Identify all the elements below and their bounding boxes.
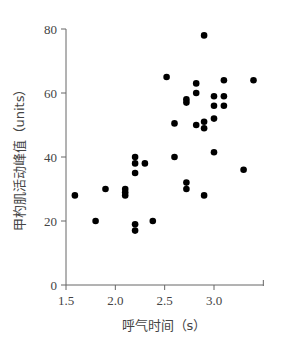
x-axis-title: 呼气时间（s） — [122, 318, 207, 333]
data-point — [211, 103, 218, 110]
data-point — [142, 160, 149, 167]
x-tick-label: 3.0 — [206, 293, 222, 308]
data-point — [132, 227, 139, 234]
y-tick-label: 0 — [51, 278, 58, 293]
y-tick-label: 20 — [44, 214, 57, 229]
data-point — [240, 167, 247, 174]
data-point — [221, 103, 228, 110]
data-point — [193, 122, 200, 129]
y-tick-label: 40 — [44, 150, 57, 165]
data-points — [72, 32, 257, 234]
data-point — [171, 120, 178, 127]
data-point — [211, 115, 218, 122]
data-point — [201, 192, 208, 199]
data-point — [183, 179, 190, 186]
y-tick-label: 80 — [44, 22, 57, 37]
data-point — [132, 221, 139, 228]
data-point — [211, 93, 218, 100]
data-point — [193, 90, 200, 97]
data-point — [163, 74, 170, 81]
data-point — [72, 192, 79, 199]
data-point — [183, 99, 190, 106]
axes: 0204060801.52.02.53.0 — [44, 22, 263, 309]
y-axis-title: 甲杓肌活动峰值（units） — [12, 83, 27, 232]
data-point — [132, 170, 139, 177]
y-tick-label: 60 — [44, 86, 57, 101]
data-point — [201, 32, 208, 39]
x-tick-label: 2.5 — [157, 293, 173, 308]
data-point — [193, 80, 200, 87]
data-point — [221, 77, 228, 84]
data-point — [211, 149, 218, 156]
data-point — [150, 218, 157, 225]
data-point — [102, 186, 109, 193]
data-point — [221, 93, 228, 100]
data-point — [122, 192, 129, 199]
data-point — [171, 154, 178, 161]
data-point — [132, 160, 139, 167]
data-point — [201, 125, 208, 132]
scatter-chart: 0204060801.52.02.53.0 呼气时间（s） 甲杓肌活动峰值（un… — [0, 0, 293, 342]
x-tick-label: 2.0 — [107, 293, 123, 308]
data-point — [183, 186, 190, 193]
data-point — [132, 154, 139, 161]
data-point — [250, 77, 257, 84]
data-point — [92, 218, 99, 225]
x-tick-label: 1.5 — [58, 293, 74, 308]
data-point — [201, 119, 208, 126]
